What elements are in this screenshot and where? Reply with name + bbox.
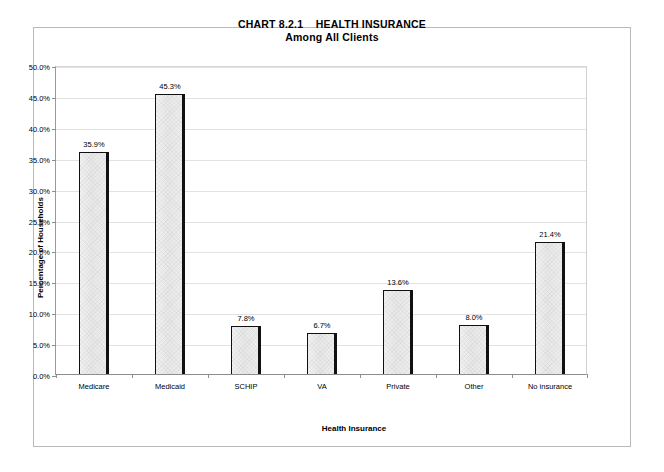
bar-group: 6.7%VA	[284, 67, 360, 374]
y-axis-tick-label: 20.0%	[29, 248, 50, 257]
y-axis-tick-label: 25.0%	[29, 217, 50, 226]
y-axis-tick-label: 30.0%	[29, 186, 50, 195]
bar-group: 7.8%SCHIP	[208, 67, 284, 374]
y-axis-tick-label: 50.0%	[29, 63, 50, 72]
chart-title: CHART 8.2.1 HEALTH INSURANCE	[0, 18, 664, 31]
bar[interactable]	[459, 325, 489, 374]
x-axis-tick-mark	[436, 374, 437, 378]
plot-area: 0.0%5.0%10.0%15.0%20.0%25.0%30.0%35.0%40…	[55, 66, 587, 375]
bar-group: 35.9%Medicare	[56, 67, 132, 374]
x-axis-tick-mark	[360, 374, 361, 378]
chart-subtitle: Among All Clients	[0, 31, 664, 44]
bar-value-label: 45.3%	[159, 82, 180, 91]
y-axis-tick-label: 35.0%	[29, 155, 50, 164]
bar[interactable]	[383, 290, 413, 374]
y-axis-tick-label: 15.0%	[29, 279, 50, 288]
bar[interactable]	[79, 152, 109, 374]
bar-value-label: 13.6%	[387, 278, 408, 287]
chart-title-block: CHART 8.2.1 HEALTH INSURANCE Among All C…	[0, 18, 664, 44]
bar-value-label: 8.0%	[465, 313, 482, 322]
x-axis-tick-mark	[512, 374, 513, 378]
y-axis-tick-label: 5.0%	[33, 341, 50, 350]
y-axis-tick-label: 10.0%	[29, 310, 50, 319]
bar[interactable]	[231, 326, 261, 374]
x-axis-tick-mark	[56, 374, 57, 378]
bar[interactable]	[535, 242, 565, 374]
bar-group: 13.6%Private	[360, 67, 436, 374]
y-axis-tick-label: 0.0%	[33, 372, 50, 381]
x-axis-tick-label: Medicaid	[155, 382, 185, 391]
x-axis-tick-label: Private	[386, 382, 409, 391]
bar-group: 45.3%Medicaid	[132, 67, 208, 374]
bar-value-label: 6.7%	[313, 321, 330, 330]
x-axis-tick-label: SCHIP	[235, 382, 258, 391]
x-axis-tick-mark	[284, 374, 285, 378]
x-axis-tick-mark	[587, 374, 588, 378]
bar-value-label: 21.4%	[539, 230, 560, 239]
x-axis-tick-mark	[132, 374, 133, 378]
bar[interactable]	[307, 333, 337, 374]
bar-group: 8.0%Other	[436, 67, 512, 374]
x-axis-title: Health Insurance	[88, 424, 620, 433]
y-axis-tick-label: 40.0%	[29, 124, 50, 133]
x-axis-tick-mark	[208, 374, 209, 378]
bar-value-label: 7.8%	[237, 314, 254, 323]
x-axis-tick-label: No insurance	[528, 382, 572, 391]
x-axis-tick-label: Medicare	[79, 382, 110, 391]
x-axis-tick-label: VA	[317, 382, 326, 391]
x-axis-tick-label: Other	[465, 382, 484, 391]
bar-group: 21.4%No insurance	[512, 67, 588, 374]
bar-value-label: 35.9%	[83, 140, 104, 149]
y-axis-tick-label: 45.0%	[29, 93, 50, 102]
bar[interactable]	[155, 94, 185, 374]
